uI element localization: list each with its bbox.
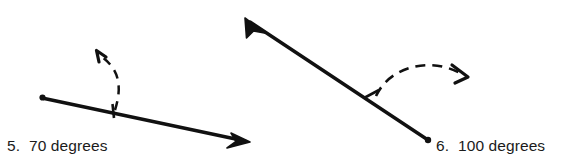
worksheet-figure-page: 5. 70 degrees 6. 100 degrees (0, 0, 588, 166)
ray-line-problem-5 (42, 98, 245, 141)
ray-origin-dot-problem-5 (39, 94, 45, 100)
angle-arc-arrowhead-problem-6 (452, 65, 468, 83)
caption-problem-5: 5. 70 degrees (7, 138, 108, 154)
ray-line-problem-6 (250, 22, 428, 140)
ray-arrowhead-problem-5 (227, 133, 250, 148)
angle-arc-problem-5 (102, 57, 119, 110)
figure-problem-6 (245, 18, 468, 143)
figure-problem-5 (39, 51, 250, 149)
ray-origin-dot-problem-6 (425, 137, 431, 143)
vertex-tick-problem-5 (113, 104, 115, 118)
caption-problem-6: 6. 100 degrees (436, 138, 545, 154)
angle-arc-problem-6 (376, 65, 460, 96)
